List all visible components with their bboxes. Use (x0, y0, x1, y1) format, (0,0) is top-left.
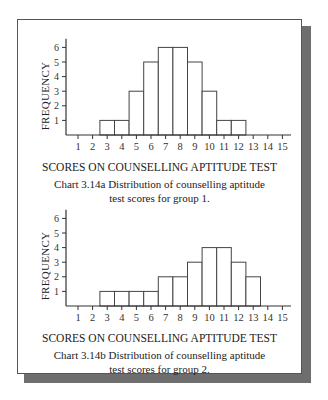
histogram-bar (202, 248, 217, 306)
y-tick-label: 1 (54, 286, 59, 297)
histogram-bar (115, 291, 130, 306)
x-tick-label: 4 (119, 312, 125, 323)
x-tick-label: 9 (192, 312, 197, 323)
histogram-bar (188, 262, 203, 306)
histogram-bar (158, 277, 173, 306)
y-tick-label: 5 (54, 228, 59, 239)
histogram-bar (129, 291, 144, 306)
x-tick-label: 3 (105, 312, 110, 323)
histogram-plot: 123456123456789101112131415 (18, 20, 303, 330)
x-tick-label: 8 (178, 312, 183, 323)
histogram-bar (173, 277, 188, 306)
chart-group-2: FREQUENCY 123456123456789101112131415 SC… (18, 20, 301, 375)
x-tick-label: 15 (277, 312, 288, 323)
x-tick-label: 5 (134, 312, 139, 323)
histogram-bar (217, 248, 232, 306)
x-tick-label: 6 (148, 312, 153, 323)
y-tick-label: 3 (54, 257, 59, 268)
y-tick-label: 4 (54, 242, 59, 253)
histogram-bar (246, 277, 261, 306)
x-tick-label: 14 (263, 312, 274, 323)
x-tick-label: 12 (233, 312, 244, 323)
y-tick-label: 2 (54, 271, 59, 282)
histogram-bar (100, 291, 115, 306)
y-tick-label: 6 (54, 213, 59, 224)
x-tick-label: 11 (219, 312, 229, 323)
histogram-bar (231, 262, 246, 306)
histogram-bar (144, 291, 159, 306)
caption-line-2: test scores for group 2. (18, 362, 301, 376)
figure-frame: FREQUENCY 123456123456789101112131415 SC… (17, 19, 302, 374)
x-tick-label: 10 (204, 312, 215, 323)
x-tick-label: 1 (75, 312, 80, 323)
x-tick-label: 2 (90, 312, 95, 323)
x-tick-label: 7 (163, 312, 168, 323)
chart-caption: Chart 3.14b Distribution of counselling … (18, 348, 301, 376)
caption-line-1: Chart 3.14b Distribution of counselling … (18, 348, 301, 362)
x-tick-label: 13 (248, 312, 259, 323)
x-axis-label: SCORES ON COUNSELLING APTITUDE TEST (18, 332, 301, 344)
